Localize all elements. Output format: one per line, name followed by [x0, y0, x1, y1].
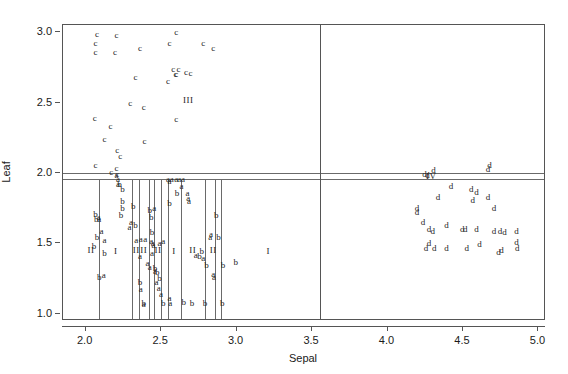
data-point-a: a [187, 197, 191, 206]
partition-hline-1 [63, 179, 544, 180]
data-point-a: a [103, 235, 107, 244]
group-label-ii: II [155, 245, 162, 254]
data-point-d: d [465, 244, 470, 253]
data-point-a: a [139, 234, 143, 243]
data-point-a: a [168, 299, 172, 308]
x-tick-label: 5.0 [530, 334, 545, 346]
data-point-a: a [161, 237, 165, 246]
data-point-d: d [444, 244, 449, 253]
data-point-c: c [166, 76, 170, 85]
group-label-iv: IV [426, 171, 437, 180]
data-point-b: b [204, 261, 209, 270]
data-point-a: a [134, 235, 138, 244]
data-point-b: b [142, 298, 147, 307]
data-point-d: d [514, 227, 519, 236]
data-point-d: d [499, 245, 504, 254]
data-point-c: c [103, 135, 107, 144]
data-point-d: d [487, 161, 492, 170]
data-point-c: c [93, 38, 97, 47]
data-point-a: a [170, 174, 174, 183]
data-point-c: c [189, 68, 193, 77]
group-label-iii: III [183, 95, 194, 104]
y-tick-mark [55, 102, 60, 103]
data-point-b: b [119, 211, 124, 220]
partition-vline-1 [99, 179, 100, 319]
data-point-b: b [190, 299, 195, 308]
y-tick-label: 3.0 [26, 25, 52, 37]
data-point-b: b [203, 299, 208, 308]
y-tick-mark [55, 242, 60, 243]
data-point-d: d [502, 228, 507, 237]
group-label-ii: II [210, 245, 217, 254]
data-point-b: b [102, 249, 107, 258]
data-point-b: b [157, 274, 162, 283]
data-point-d: d [471, 195, 476, 204]
data-point-d: d [436, 192, 441, 201]
y-tick-mark [55, 31, 60, 32]
data-point-c: c [138, 44, 142, 53]
cropped-top-text [0, 0, 568, 6]
data-point-c: c [174, 28, 178, 37]
data-point-c: c [143, 136, 147, 145]
data-point-c: c [174, 114, 178, 123]
data-point-c: c [184, 67, 188, 76]
partition-hline-0 [63, 173, 544, 174]
data-point-b: b [131, 202, 136, 211]
data-point-b: b [138, 278, 143, 287]
data-point-d: d [460, 225, 465, 234]
data-point-b: b [167, 198, 172, 207]
x-tick-label: 2.5 [152, 334, 167, 346]
panel-divider [320, 25, 321, 319]
x-axis-line [62, 326, 545, 327]
data-point-d: d [469, 185, 474, 194]
y-tick-label: 2.0 [26, 166, 52, 178]
data-point-a: a [179, 182, 183, 191]
x-tick-label: 4.5 [454, 334, 469, 346]
data-point-b: b [182, 297, 187, 306]
data-point-a: a [150, 248, 154, 257]
data-point-a: a [127, 223, 131, 232]
data-point-b: b [120, 184, 125, 193]
x-tick-label: 3.0 [228, 334, 243, 346]
data-point-d: d [415, 208, 420, 217]
group-label-ii: II [87, 245, 94, 254]
data-point-c: c [115, 30, 119, 39]
y-tick-label: 2.5 [26, 96, 52, 108]
x-tick-label: 3.5 [303, 334, 318, 346]
data-point-b: b [221, 261, 226, 270]
data-point-c: c [211, 44, 215, 53]
data-point-d: d [444, 221, 449, 230]
group-label-ii: II [133, 245, 140, 254]
data-point-b: b [133, 221, 138, 230]
data-point-d: d [449, 182, 454, 191]
data-point-c: c [93, 161, 97, 170]
data-point-d: d [477, 240, 482, 249]
group-label-i: I [172, 246, 176, 255]
data-point-b: b [149, 212, 154, 221]
data-point-b: b [161, 298, 166, 307]
data-point-b: b [220, 299, 225, 308]
group-label-ii: II [189, 245, 196, 254]
data-point-c: c [113, 48, 117, 57]
x-tick-label: 4.0 [379, 334, 394, 346]
y-tick-label: 1.0 [26, 307, 52, 319]
data-point-d: d [492, 203, 497, 212]
data-point-b: b [200, 246, 205, 255]
data-point-d: d [432, 243, 437, 252]
y-tick-mark [55, 172, 60, 173]
data-point-b: b [150, 228, 155, 237]
group-label-i: I [267, 246, 271, 255]
data-point-a: a [102, 271, 106, 280]
x-axis-title: Sepal [289, 352, 317, 364]
data-point-c: c [93, 48, 97, 57]
data-point-d: d [514, 238, 519, 247]
data-point-c: c [118, 152, 122, 161]
plot-area: cccccccccccccccccccccccccccccccaaaaaaaaa… [62, 24, 545, 320]
data-point-a: a [148, 262, 152, 271]
data-point-d: d [474, 224, 479, 233]
y-tick-mark [55, 313, 60, 314]
data-point-d: d [421, 217, 426, 226]
data-point-a: a [208, 233, 212, 242]
x-tick-label: 2.0 [77, 334, 92, 346]
data-point-d: d [492, 226, 497, 235]
